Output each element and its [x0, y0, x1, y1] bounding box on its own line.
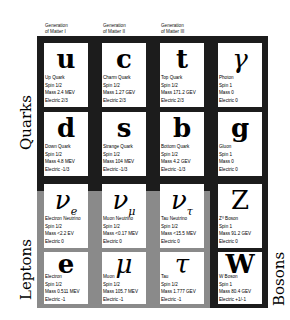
particle-symbol: t — [160, 45, 204, 73]
particle-mass: Mass 104 MEV — [103, 158, 134, 166]
particle-mass: Mass 2.4 MEV — [45, 89, 75, 97]
particle-card-strange[interactable]: s Strange Quark Spin 1/2 Mass 104 MEV El… — [102, 112, 146, 176]
particle-info: Up Quark Spin 1/2 Mass 2.4 MEV Electric … — [45, 74, 75, 104]
particle-symbol: s — [102, 114, 146, 142]
particle-info: Gluon Spin 1 Mass 0 Electric 0 — [219, 143, 238, 173]
particle-mass: Mass <0.17 MEV — [103, 230, 138, 238]
particle-mass: Mass 4.2 GEV — [161, 158, 191, 166]
particle-info: Photon Spin 1 Mass 0 Electric 0 — [219, 74, 238, 104]
particle-card-w-boson[interactable]: W W Boson Spin 1 Mass 80.4 GEV Electric … — [218, 252, 262, 304]
particle-name: Electron — [45, 273, 80, 281]
particle-charge: Electric -1 — [45, 296, 80, 304]
particle-spin: Spin 1/2 — [45, 151, 75, 159]
particle-spin: Spin 1/2 — [103, 82, 135, 90]
particle-info: Electron Neutrino Spin 1/2 Mass <2.2 EV … — [45, 215, 81, 245]
particle-mass: Mass 80.4 GEV — [219, 288, 251, 296]
particle-charge: Electric -1/3 — [103, 166, 134, 174]
particle-card-electron-neutrino[interactable]: νe Electron Neutrino Spin 1/2 Mass <2.2 … — [44, 184, 88, 248]
particle-info: Tau Spin 1/2 Mass 1.777 GEV Electric -1 — [161, 273, 196, 303]
particle-charge: Electric 0 — [161, 238, 196, 246]
particle-mass: Mass 0 — [219, 158, 238, 166]
particle-spin: Spin 1/2 — [103, 281, 138, 289]
particle-info: Top Quark Spin 1/2 Mass 171.2 GEV Electr… — [161, 74, 196, 104]
particle-card-tau[interactable]: τ Tau Spin 1/2 Mass 1.777 GEV Electric -… — [160, 252, 204, 304]
particle-charge: Electric 2/3 — [161, 97, 196, 105]
particle-spin: Spin 1/2 — [161, 82, 196, 90]
particle-card-up[interactable]: u Up Quark Spin 1/2 Mass 2.4 MEV Electri… — [44, 43, 88, 107]
particle-name: Strange Quark — [103, 143, 134, 151]
particle-charge: Electric 0 — [103, 238, 138, 246]
particle-symbol: d — [44, 114, 88, 142]
particle-charge: Electric -1 — [103, 296, 138, 304]
particle-card-z-boson[interactable]: Z Z⁰ Boson Spin 1 Mass 91.2 GEV Electric… — [218, 184, 262, 248]
symbol-main: ν — [171, 185, 187, 215]
particle-spin: Spin 1/2 — [161, 151, 191, 159]
particle-spin: Spin 1 — [219, 223, 251, 231]
particle-symbol: c — [102, 45, 146, 73]
particle-charge: Electric 0 — [219, 238, 251, 246]
particle-name: Tau — [161, 273, 196, 281]
particle-name: Down Quark — [45, 143, 75, 151]
particle-name: Tau Neutrino — [161, 215, 196, 223]
particle-card-photon[interactable]: γ Photon Spin 1 Mass 0 Electric 0 — [218, 43, 262, 107]
particle-mass: Mass <2.2 EV — [45, 230, 81, 238]
particle-symbol: Z — [218, 186, 262, 214]
particle-spin: Spin 1/2 — [45, 223, 81, 231]
particle-info: Electron Spin 1/2 Mass 0.511 MEV Electri… — [45, 273, 80, 303]
particle-spin: Spin 1/2 — [45, 82, 75, 90]
particle-mass: Mass 0 — [219, 89, 238, 97]
particle-card-bottom[interactable]: b Bottom Quark Spin 1/2 Mass 4.2 GEV Ele… — [160, 112, 204, 176]
particle-symbol: u — [44, 45, 88, 73]
generation-header-2: Generation of Matter II — [103, 23, 126, 35]
particle-card-muon-neutrino[interactable]: νμ Muon Neutrino Spin 1/2 Mass <0.17 MEV… — [102, 184, 146, 248]
particle-symbol: γ — [218, 45, 262, 73]
particle-card-tau-neutrino[interactable]: ντ Tau Neutrino Spin 1/2 Mass <15.5 MEV … — [160, 184, 204, 248]
particle-name: Charm Quark — [103, 74, 135, 82]
particle-charge: Electric -1 — [161, 296, 196, 304]
symbol-main: ν — [55, 185, 71, 215]
particle-charge: Electric -1/3 — [161, 166, 191, 174]
particle-spin: Spin 1/2 — [45, 281, 80, 289]
particle-spin: Spin 1/2 — [161, 223, 196, 231]
particle-card-electron[interactable]: e Electron Spin 1/2 Mass 0.511 MEV Elect… — [44, 252, 88, 304]
particle-spin: Spin 1/2 — [161, 281, 196, 289]
particle-mass: Mass 0.511 MEV — [45, 288, 80, 296]
particle-info: Muon Spin 1/2 Mass 105.7 MEV Electric -1 — [103, 273, 138, 303]
particle-spin: Spin 1/2 — [103, 223, 138, 231]
particle-charge: Electric +1/-1 — [219, 296, 251, 304]
particle-name: Muon Neutrino — [103, 215, 138, 223]
particle-charge: Electric 2/3 — [103, 97, 135, 105]
particle-info: Z⁰ Boson Spin 1 Mass 91.2 GEV Electric 0 — [219, 215, 251, 245]
generation-line2: of Matter I — [45, 29, 68, 35]
particle-name: Electron Neutrino — [45, 215, 81, 223]
particle-info: Charm Quark Spin 1/2 Mass 1.27 GEV Elect… — [103, 74, 135, 104]
particle-charge: Electric 0 — [219, 97, 238, 105]
particle-symbol: g — [218, 114, 262, 142]
particle-card-gluon[interactable]: g Gluon Spin 1 Mass 0 Electric 0 — [218, 112, 262, 176]
particle-card-charm[interactable]: c Charm Quark Spin 1/2 Mass 1.27 GEV Ele… — [102, 43, 146, 107]
leptons-label: Leptons — [17, 239, 35, 300]
particle-mass: Mass 1.777 GEV — [161, 288, 196, 296]
particle-name: W Boson — [219, 273, 251, 281]
particle-mass: Mass 1.27 GEV — [103, 89, 135, 97]
particle-charge: Electric 0 — [45, 238, 81, 246]
particle-info: Down Quark Spin 1/2 Mass 4.8 MEV Electri… — [45, 143, 75, 173]
particle-info: W Boson Spin 1 Mass 80.4 GEV Electric +1… — [219, 273, 251, 303]
particle-info: Bottom Quark Spin 1/2 Mass 4.2 GEV Elect… — [161, 143, 191, 173]
particle-spin: Spin 1 — [219, 281, 251, 289]
particle-card-top[interactable]: t Top Quark Spin 1/2 Mass 171.2 GEV Elec… — [160, 43, 204, 107]
particle-card-muon[interactable]: μ Muon Spin 1/2 Mass 105.7 MEV Electric … — [102, 252, 146, 304]
particle-name: Bottom Quark — [161, 143, 191, 151]
particle-name: Muon — [103, 273, 138, 281]
quarks-label: Quarks — [17, 95, 35, 150]
particle-card-down[interactable]: d Down Quark Spin 1/2 Mass 4.8 MEV Elect… — [44, 112, 88, 176]
particle-mass: Mass 105.7 MEV — [103, 288, 138, 296]
particle-name: Up Quark — [45, 74, 75, 82]
particle-name: Z⁰ Boson — [219, 215, 251, 223]
generation-line2: of Matter III — [161, 29, 184, 35]
symbol-main: ν — [113, 185, 129, 215]
particle-charge: Electric 0 — [219, 166, 238, 174]
particle-spin: Spin 1 — [219, 151, 238, 159]
particle-charge: Electric -1/3 — [45, 166, 75, 174]
particle-mass: Mass 91.2 GEV — [219, 230, 251, 238]
